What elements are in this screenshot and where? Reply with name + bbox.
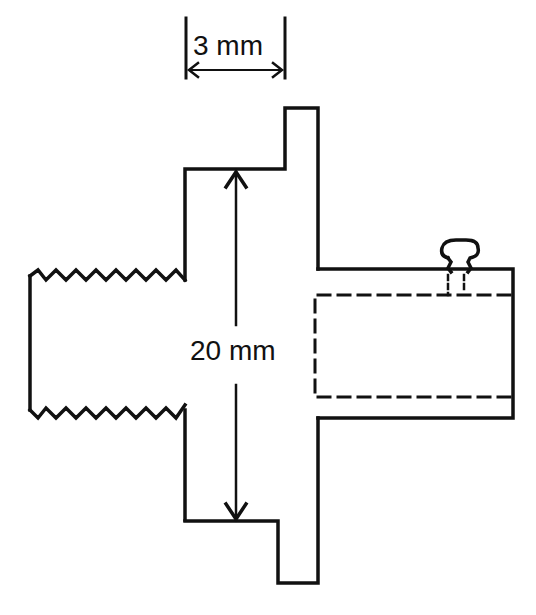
width-label: 3 mm xyxy=(193,30,263,61)
height-label: 20 mm xyxy=(190,335,276,366)
inner-bore xyxy=(315,295,512,397)
fitting-diagram: 3 mm 20 mm xyxy=(0,0,536,615)
threaded-end xyxy=(30,270,185,418)
